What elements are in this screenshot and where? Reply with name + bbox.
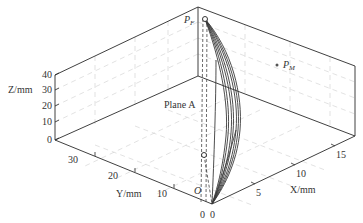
z-tick-30: 30 bbox=[42, 84, 52, 95]
grid bbox=[55, 21, 355, 205]
reference-dashed-lines bbox=[201, 19, 212, 204]
x-tick-5: 5 bbox=[256, 187, 261, 198]
pm-label: PM bbox=[282, 59, 296, 72]
z-tick-40: 40 bbox=[42, 69, 52, 80]
z-tick-10: 10 bbox=[42, 116, 52, 127]
z-tick-20: 20 bbox=[42, 100, 52, 111]
y-tick-0: 0 bbox=[200, 209, 205, 220]
plane-a-label: Plane A bbox=[164, 99, 196, 110]
origin-label: O bbox=[194, 185, 201, 196]
y-tick-10: 10 bbox=[157, 188, 167, 199]
y-tick-20: 20 bbox=[108, 170, 118, 181]
z-tick-0: 0 bbox=[47, 134, 52, 145]
x-axis-label: X/mm bbox=[290, 184, 316, 195]
3d-trajectory-chart: 40 30 20 10 0 Z/mm 30 20 10 0 Y/mm 0 5 1… bbox=[0, 0, 363, 223]
x-tick-10: 10 bbox=[296, 168, 306, 179]
z-axis-label: Z/mm bbox=[8, 84, 33, 95]
axes-box bbox=[55, 7, 355, 204]
x-tick-0: 0 bbox=[210, 209, 215, 220]
mid-marker bbox=[202, 153, 207, 158]
x-tick-15: 15 bbox=[336, 149, 346, 160]
pm-marker bbox=[276, 64, 279, 67]
pf-marker bbox=[203, 17, 208, 22]
y-axis-label: Y/mm bbox=[116, 188, 142, 199]
y-tick-30: 30 bbox=[68, 154, 78, 165]
pf-label: PF bbox=[183, 14, 195, 27]
trajectory-bundle bbox=[205, 19, 240, 204]
